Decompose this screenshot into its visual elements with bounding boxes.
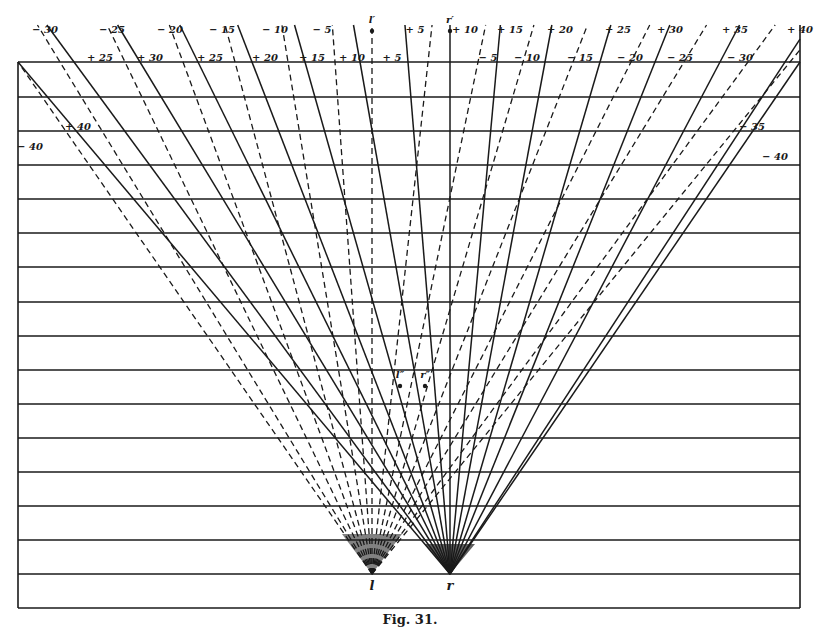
l-double-prime-label: l″ (396, 369, 405, 380)
dashed-ray (372, 25, 588, 574)
binocular-ray-diagram: − 30− 25− 20− 15− 10− 5+ 5+ 10+ 15+ 20+ … (0, 0, 817, 627)
top-angle-label: + 30 (657, 24, 683, 35)
l-label: l (370, 578, 375, 593)
frame-angle-labels: + 25+ 30+ 25+ 20+ 15+ 10+ 5− 5− 10− 15− … (17, 52, 788, 162)
dashed-ray (372, 25, 534, 574)
solid-ray (47, 25, 450, 574)
frame-angle-label: − 35 (739, 121, 765, 132)
frame-angle-label: + 20 (252, 52, 278, 63)
r-prime-label-dot (448, 29, 452, 33)
frame-angle-label: + 40 (65, 121, 91, 132)
top-angle-label: + 15 (497, 24, 523, 35)
dashed-ray (372, 25, 775, 574)
r-label: r (447, 578, 455, 593)
r-double-prime-label: r″ (420, 369, 430, 380)
top-angle-label: − 5 (313, 24, 332, 35)
frame-angle-label: + 25 (87, 52, 113, 63)
l-prime-label-dot (370, 29, 374, 33)
dashed-ray (169, 25, 372, 574)
r-apex-fan (425, 544, 475, 574)
dashed-ray (332, 25, 372, 574)
dashed-ray (107, 25, 372, 574)
frame-angle-label: + 25 (197, 52, 223, 63)
solid-ray (238, 25, 450, 574)
solid-ray (353, 25, 450, 574)
frame-angle-label: − 25 (667, 52, 693, 63)
top-angle-label: + 10 (452, 24, 478, 35)
top-angle-label: − 25 (99, 24, 125, 35)
frame-angle-label: − 5 (479, 52, 498, 63)
solid-ray (450, 25, 552, 574)
top-angle-label: − 30 (32, 24, 58, 35)
solid-ray (450, 39, 800, 574)
top-angle-label: + 5 (406, 24, 425, 35)
frame-angle-label: + 15 (299, 52, 325, 63)
top-angle-label: − 10 (262, 24, 288, 35)
dashed-ray (18, 62, 372, 574)
top-angle-labels: − 30− 25− 20− 15− 10− 5+ 5+ 10+ 15+ 20+ … (32, 24, 813, 35)
solid-ray (405, 25, 450, 574)
solid-ray (118, 25, 450, 574)
r-double-prime-label-dot (423, 384, 427, 388)
frame-angle-label: + 10 (339, 52, 365, 63)
dashed-ray (282, 25, 372, 574)
dashed-ray (372, 25, 707, 574)
solid-ray (450, 25, 611, 574)
frame-angle-label: − 15 (567, 52, 593, 63)
top-angle-label: + 20 (547, 24, 573, 35)
frame-angle-label: − 40 (17, 141, 43, 152)
top-angle-label: + 40 (787, 24, 813, 35)
figure-caption: Fig. 31. (383, 612, 438, 627)
top-angle-label: − 15 (209, 24, 235, 35)
solid-ray (18, 62, 450, 574)
solid-rays-from-r (18, 25, 800, 574)
l-double-prime-label-dot (398, 384, 402, 388)
l-prime-label: l′ (369, 14, 376, 25)
frame-angle-label: + 5 (383, 52, 402, 63)
frame-angle-label: + 30 (137, 52, 163, 63)
frame-border (18, 25, 800, 608)
dashed-ray (225, 25, 372, 574)
r-prime-label: r′ (446, 14, 454, 25)
top-angle-label: + 35 (722, 24, 748, 35)
frame-angle-label: − 20 (617, 52, 643, 63)
frame-angle-label: − 30 (727, 52, 753, 63)
top-angle-label: − 20 (157, 24, 183, 35)
l-apex-fan (342, 534, 402, 574)
dashed-ray (37, 25, 372, 574)
frame-angle-label: − 40 (762, 151, 788, 162)
top-angle-label: + 25 (605, 24, 631, 35)
dashed-ray (372, 25, 650, 574)
frame-angle-label: − 10 (514, 52, 540, 63)
